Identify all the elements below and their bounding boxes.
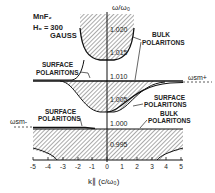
bulk-polaritons-label-1a: BULK <box>152 31 170 38</box>
material-label: MnF₂ <box>33 12 52 21</box>
surface-polaritons-label-1b: POLARITONS <box>36 69 79 76</box>
ytick-1020: 1.020 <box>110 26 128 33</box>
y-axis-label: ω/ω₀ <box>112 3 130 12</box>
lower-bulk-band <box>33 129 183 160</box>
svg-text:3: 3 <box>150 163 154 170</box>
svg-text:1: 1 <box>120 163 124 170</box>
surface-polaritons-label-2b: POLARITONS <box>144 101 187 108</box>
surface-polaritons-label-3b: POLARITONS <box>38 115 81 122</box>
surface-polaritons-label-3a: SURFACE <box>45 108 77 115</box>
field-units-label: GAUSS <box>50 31 77 40</box>
ytick-1000: 1.000 <box>110 120 128 127</box>
svg-text:0: 0 <box>105 163 109 170</box>
surface-polariton-curve-lower-left <box>33 128 95 129</box>
bulk-polaritons-label-2b: POLARITONS <box>148 117 191 124</box>
wsm-minus-label: ωsm- <box>10 118 28 125</box>
leader-surface-3 <box>80 118 82 126</box>
bulk-polaritons-label-1b: POLARITONS <box>142 39 185 46</box>
surface-polaritons-label-1a: SURFACE <box>42 61 74 68</box>
svg-text:5: 5 <box>179 163 183 170</box>
leader-bulk-1b <box>135 42 141 80</box>
leader-surface-2 <box>133 104 143 106</box>
x-tick-labels: -5 -4 -3 -2 -1 0 1 2 3 4 5 <box>30 163 183 170</box>
svg-text:-2: -2 <box>75 163 81 170</box>
ytick-1010: 1.010 <box>110 73 128 80</box>
svg-text:-3: -3 <box>60 163 66 170</box>
wsm-plus-label: ωsm+ <box>188 74 207 81</box>
ytick-1015: 1.015 <box>110 49 128 56</box>
leader-bulk-2 <box>140 120 147 128</box>
leader-surface-1 <box>80 72 90 78</box>
ytick-1005: 1.005 <box>110 96 128 103</box>
svg-text:4: 4 <box>164 163 168 170</box>
svg-text:2: 2 <box>135 163 139 170</box>
leader-bulk-1a <box>133 37 141 40</box>
surface-polaritons-label-2a: SURFACE <box>154 94 186 101</box>
svg-text:-1: -1 <box>89 163 95 170</box>
svg-text:-4: -4 <box>45 163 51 170</box>
dispersion-chart: 1.020 1.015 1.010 1.005 1.000 0.995 ω/ω₀… <box>0 0 215 193</box>
svg-text:-5: -5 <box>30 163 36 170</box>
ytick-0995: 0.995 <box>110 141 128 148</box>
bulk-polaritons-label-2a: BULK <box>160 110 178 117</box>
x-axis-label: k∥ (c/ω₀) <box>88 177 120 186</box>
